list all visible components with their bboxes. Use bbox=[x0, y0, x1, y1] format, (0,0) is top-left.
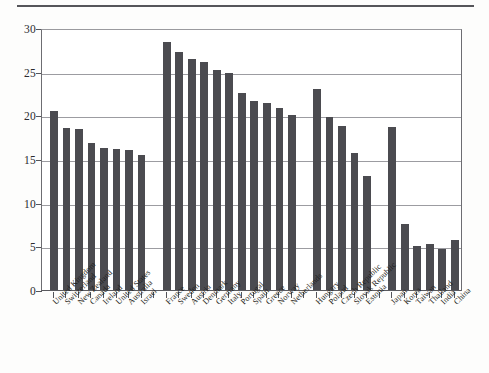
document-page: 051015202530 United KingdomSwitzerlandNe… bbox=[0, 0, 489, 373]
x-axis-labels: United KingdomSwitzerlandNew ZealandCana… bbox=[0, 0, 489, 373]
x-axis-label: China bbox=[452, 286, 473, 307]
bar-chart: 051015202530 United KingdomSwitzerlandNe… bbox=[0, 0, 489, 373]
